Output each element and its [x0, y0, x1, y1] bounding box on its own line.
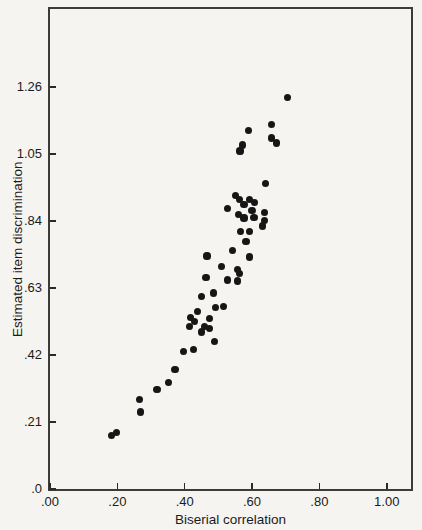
data-point: [212, 304, 219, 311]
y-tick: [50, 354, 56, 356]
data-point: [211, 338, 218, 345]
scatter-figure: Estimated item discrimination .00.20.40.…: [0, 0, 422, 530]
data-point: [202, 274, 209, 281]
data-point: [180, 348, 187, 355]
data-point: [203, 252, 210, 259]
y-tick: [50, 287, 56, 289]
y-tick-label: .84: [0, 213, 42, 229]
data-point: [248, 207, 255, 214]
data-point: [261, 209, 268, 216]
data-point: [224, 205, 231, 212]
data-point: [240, 214, 247, 221]
x-tick: [386, 483, 388, 489]
x-tick-label: .20: [95, 494, 139, 509]
x-tick-label: .40: [163, 494, 207, 509]
x-tick: [117, 483, 119, 489]
data-point: [237, 228, 244, 235]
data-point: [259, 222, 266, 229]
data-point: [250, 214, 257, 221]
data-point: [186, 323, 193, 330]
data-point: [210, 289, 217, 296]
y-tick-label: .42: [0, 347, 42, 363]
data-point: [284, 94, 291, 101]
y-tick: [50, 488, 56, 490]
data-point: [136, 396, 143, 403]
y-tick: [50, 421, 56, 423]
plot-area: .00.20.40.60.801.00.0.21.42.63.841.051.2…: [48, 7, 413, 491]
data-point: [206, 325, 213, 332]
data-point: [251, 199, 258, 206]
data-point: [245, 127, 252, 134]
x-tick: [319, 483, 321, 489]
data-point: [236, 147, 243, 154]
x-tick-label: .80: [297, 494, 341, 509]
x-tick: [184, 483, 186, 489]
data-point: [190, 346, 197, 353]
data-point: [198, 328, 205, 335]
y-tick-label: 1.26: [0, 79, 42, 95]
y-tick: [50, 86, 56, 88]
data-point: [242, 238, 249, 245]
y-tick: [50, 220, 56, 222]
x-tick: [251, 483, 253, 489]
data-point: [224, 276, 231, 283]
data-point: [268, 121, 275, 128]
data-point: [273, 139, 280, 146]
data-point: [194, 308, 201, 315]
data-point: [165, 379, 172, 386]
data-point: [171, 366, 178, 373]
data-point: [218, 263, 225, 270]
data-point: [153, 386, 160, 393]
y-tick-label: .63: [0, 280, 42, 296]
data-point: [113, 429, 120, 436]
data-point: [246, 253, 253, 260]
data-point: [198, 293, 205, 300]
x-tick-label: 1.00: [365, 494, 409, 509]
y-tick-label: 1.05: [0, 146, 42, 162]
data-point: [137, 408, 144, 415]
data-point: [206, 315, 213, 322]
x-axis-title: Biserial correlation: [48, 512, 413, 527]
y-tick: [50, 153, 56, 155]
data-point: [234, 277, 241, 284]
data-point: [220, 303, 227, 310]
y-tick-label: .21: [0, 414, 42, 430]
data-point: [262, 180, 269, 187]
data-point: [229, 247, 236, 254]
x-tick-label: .60: [230, 494, 274, 509]
data-point: [240, 201, 247, 208]
y-tick-label: .0: [0, 481, 42, 497]
data-point: [246, 228, 253, 235]
